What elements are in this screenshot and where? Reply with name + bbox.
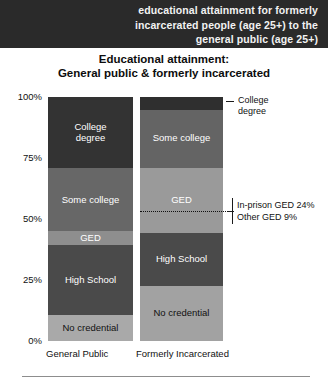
segment-formerly-some-college[interactable]: Some college: [140, 110, 223, 168]
y-tick-100: 100%: [0, 91, 42, 102]
y-tick-25: 25%: [0, 274, 42, 285]
segment-label-no-credential: No credential: [48, 322, 133, 333]
bar-general-public[interactable]: College degree Some college GED High Sch…: [48, 97, 133, 341]
segment-general-some-college[interactable]: Some college: [48, 168, 133, 231]
callout-college-degree: College degree: [238, 95, 269, 117]
y-tick-75: 75%: [0, 152, 42, 163]
x-label-formerly-incarcerated: Formerly Incarcerated: [136, 348, 229, 359]
callout-other-ged: Other GED 9%: [237, 212, 297, 223]
callout-in-prison-ged: In-prison GED 24%: [237, 200, 315, 211]
bar-formerly-incarcerated[interactable]: Some college GED High School No credenti…: [140, 97, 223, 341]
segment-general-college-degree[interactable]: College degree: [48, 97, 133, 168]
callout-college-degree-line1: College: [238, 95, 269, 106]
segment-label-high-school: High School: [48, 274, 133, 285]
bottom-divider: [22, 376, 310, 377]
callout-college-degree-line2: degree: [238, 106, 269, 117]
segment-label-no-credential: No credential: [140, 307, 223, 318]
segment-label-ged: GED: [140, 194, 223, 205]
segment-formerly-high-school[interactable]: High School: [140, 233, 223, 286]
segment-formerly-college-degree[interactable]: [140, 97, 223, 110]
chart-page: educational attainment for formerly inca…: [0, 0, 328, 385]
segment-label-high-school: High School: [140, 253, 223, 264]
segment-label-ged: GED: [48, 232, 133, 243]
ged-split-leader-dash: [228, 211, 234, 212]
segment-label-college-degree-line2: degree: [48, 132, 133, 143]
y-tick-0: 0%: [0, 335, 42, 346]
segment-formerly-no-credential[interactable]: No credential: [140, 286, 223, 341]
segment-label-college-degree-line1: College: [48, 121, 133, 132]
segment-formerly-ged[interactable]: GED: [140, 168, 223, 233]
segment-general-no-credential[interactable]: No credential: [48, 315, 133, 341]
ged-split-dotted-line: [140, 211, 228, 212]
x-label-general-public: General Public: [46, 348, 108, 359]
segment-general-ged[interactable]: GED: [48, 231, 133, 245]
college-degree-leader-dash: [226, 101, 234, 102]
segment-general-high-school[interactable]: High School: [48, 245, 133, 315]
y-tick-50: 50%: [0, 213, 42, 224]
plot-area: 100% 75% 50% 25% 0% College degree Some …: [0, 0, 328, 385]
segment-label-some-college: Some college: [48, 194, 133, 205]
segment-label-some-college: Some college: [140, 132, 223, 143]
